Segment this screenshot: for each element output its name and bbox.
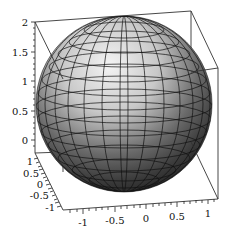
sphere-3d-plot: 2 1.5 1 0.5 0 1 0.5 0 -0.5 -1 [0, 0, 234, 240]
x-tick-label: -1 [78, 217, 88, 228]
z-tick-label: 1.5 [12, 47, 28, 58]
z-tick-label: 0 [22, 135, 28, 146]
x-tick-label: 1 [205, 208, 211, 219]
y-tick-label: -0.5 [30, 190, 49, 201]
x-axis: -1 -0.5 0 0.5 1 [70, 199, 214, 228]
sphere-surface [36, 16, 212, 192]
y-axis: 1 0.5 0 -0.5 -1 [23, 156, 61, 213]
x-tick-label: -0.5 [105, 215, 124, 226]
y-tick-label: 0 [37, 179, 43, 190]
z-tick-label: 2 [22, 17, 28, 28]
z-tick-label: 1 [22, 76, 28, 87]
z-axis: 2 1.5 1 0.5 0 [12, 17, 35, 146]
z-tick-label: 0.5 [12, 106, 28, 117]
y-tick-label: 0.5 [23, 168, 39, 179]
y-tick-label: -1 [45, 202, 55, 213]
x-tick-label: 0.5 [169, 211, 185, 222]
y-tick-label: 1 [27, 156, 33, 167]
x-tick-label: 0 [143, 213, 149, 224]
